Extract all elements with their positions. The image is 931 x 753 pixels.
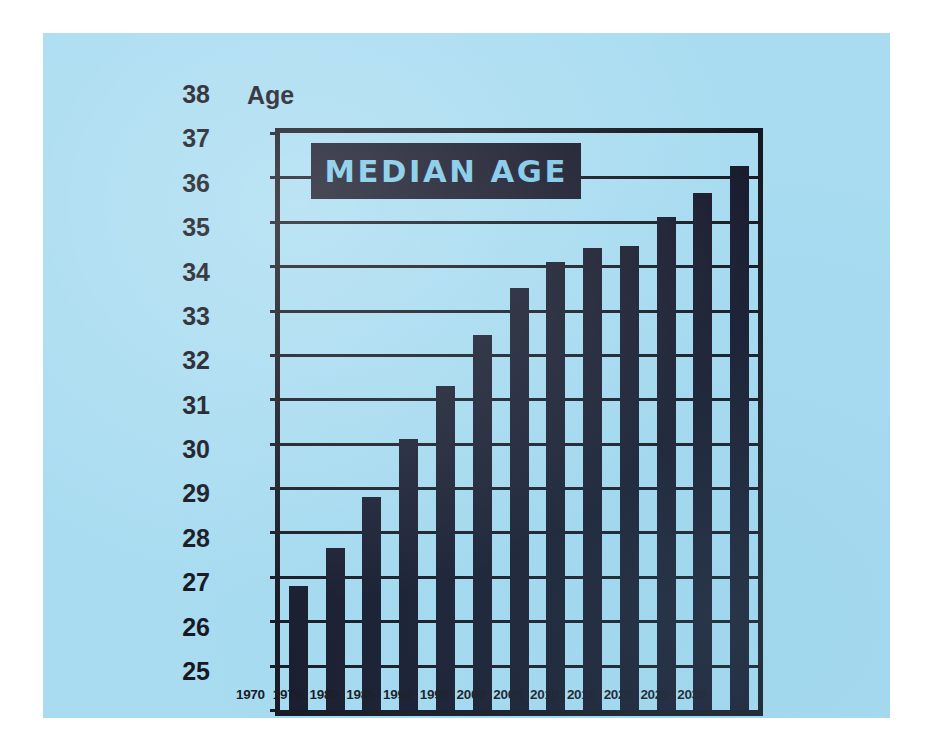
y-tick-mark <box>270 221 280 224</box>
y-tick-mark <box>270 443 280 446</box>
y-tick-label: 29 <box>43 481 210 506</box>
y-tick-mark <box>270 176 280 179</box>
y-tick-mark <box>270 487 280 490</box>
y-tick-mark <box>270 620 280 623</box>
y-tick-mark <box>270 132 280 135</box>
poster-panel: Age 3837363534333231302928272625 1970197… <box>43 33 890 718</box>
y-tick-label: 30 <box>43 437 210 462</box>
chart-title-text: MEDIAN AGE <box>324 154 567 189</box>
y-tick-label: 33 <box>43 304 210 329</box>
y-tick-label: 28 <box>43 526 210 551</box>
gridline <box>280 221 758 224</box>
plot-area <box>275 128 763 716</box>
gridline <box>280 265 758 268</box>
bar <box>693 193 712 710</box>
bar <box>657 217 676 710</box>
y-tick-label: 37 <box>43 126 210 151</box>
y-tick-label: 31 <box>43 393 210 418</box>
y-tick-label: 26 <box>43 615 210 640</box>
y-axis-caption: Age <box>247 83 294 108</box>
y-tick-mark <box>270 531 280 534</box>
bar <box>620 246 639 710</box>
y-tick-mark <box>270 398 280 401</box>
chart-screenshot: Age 3837363534333231302928272625 1970197… <box>0 0 931 753</box>
y-tick-mark <box>270 265 280 268</box>
y-tick-label: 36 <box>43 171 210 196</box>
bar <box>436 386 455 710</box>
y-tick-mark <box>270 354 280 357</box>
bar <box>326 548 345 710</box>
y-tick-label: 32 <box>43 348 210 373</box>
y-tick-label: 27 <box>43 570 210 595</box>
bar <box>510 288 529 710</box>
y-tick-label: 38 <box>43 82 210 107</box>
bar <box>399 439 418 710</box>
y-tick-mark <box>270 576 280 579</box>
y-tick-mark <box>270 310 280 313</box>
bar <box>362 497 381 710</box>
y-tick-label: 34 <box>43 260 210 285</box>
bar <box>473 335 492 710</box>
y-tick-label: 35 <box>43 215 210 240</box>
chart-title-banner: MEDIAN AGE <box>311 143 581 199</box>
bar <box>583 248 602 710</box>
y-tick-mark <box>270 665 280 668</box>
y-tick-label: 25 <box>43 659 210 684</box>
x-tick-label: 2030 <box>667 688 716 702</box>
bar <box>730 166 749 710</box>
bar <box>546 262 565 710</box>
y-tick-mark <box>270 709 280 712</box>
